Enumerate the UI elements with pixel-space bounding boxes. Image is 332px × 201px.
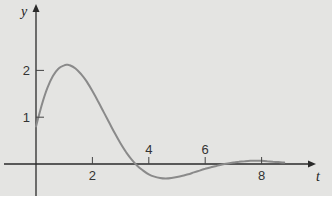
x-axis-arrow-icon xyxy=(308,161,316,168)
y-axis-arrow-icon xyxy=(33,4,40,12)
x-tick-label: 8 xyxy=(258,168,265,183)
axes xyxy=(4,4,316,196)
x-axis-label: t xyxy=(316,169,321,184)
y-axis-label: y xyxy=(19,4,28,19)
x-tick-label: 4 xyxy=(145,142,152,157)
y-tick-label: 2 xyxy=(23,63,30,78)
y-ticks: 12 xyxy=(23,63,44,125)
x-tick-label: 6 xyxy=(202,142,209,157)
x-tick-label: 2 xyxy=(89,168,96,183)
data-curve xyxy=(36,65,284,179)
line-chart: y t 2468 12 xyxy=(0,0,332,201)
y-tick-label: 1 xyxy=(23,110,30,125)
